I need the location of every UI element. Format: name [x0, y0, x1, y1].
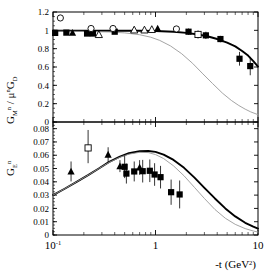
x-tick-base: 10 [253, 239, 265, 251]
top-panel-data-points [52, 15, 253, 75]
y-tick-label: 0.06 [33, 150, 49, 160]
y-tick-label: 1.2 [38, 7, 49, 17]
marker-filled-square [177, 191, 183, 197]
marker-filled-square [140, 168, 146, 174]
x-axis-title: -t (GeV2) [215, 258, 256, 271]
marker-filled-square [123, 170, 129, 176]
curve-main-curve [53, 151, 258, 229]
y-tick-label: 0.03 [33, 190, 49, 200]
bottom-panel-data-points [67, 130, 182, 208]
x-tick-base: 1 [153, 239, 159, 251]
physics-form-factor-figure: GMn / μnGD GEn 1.210.80.60.40.20 0.080.0… [0, 0, 269, 274]
marker-filled-square [236, 56, 242, 62]
marker-filled-triangle [67, 168, 74, 175]
marker-filled-triangle [105, 151, 112, 158]
marker-open-square [85, 145, 91, 151]
y-tick-label: 0.07 [33, 137, 49, 147]
y-tick-label: 0.04 [33, 177, 49, 187]
x-axis-tick-labels: 10-1110 [45, 239, 264, 251]
curve-main-curve [53, 31, 258, 67]
marker-filled-square [247, 63, 253, 69]
top-panel-ticks [53, 12, 258, 122]
marker-filled-square [168, 189, 174, 195]
marker-open-circle [88, 25, 94, 31]
xtitle-suffix: ) [252, 258, 256, 271]
x-tick-label: 10 [253, 239, 265, 251]
marker-filled-square [52, 30, 58, 36]
marker-open-circle [173, 26, 179, 32]
y-tick-label: 1 [45, 26, 50, 36]
y-tick-label: 0.01 [33, 217, 49, 227]
y-tick-label: 0.2 [38, 99, 49, 109]
top-panel-curves [53, 31, 258, 115]
y-tick-label: 0.8 [38, 44, 50, 54]
y-tick-label: 0.6 [38, 62, 50, 72]
y-tick-label: 0.4 [38, 81, 50, 91]
marker-filled-square [217, 36, 223, 42]
bottom-panel-tick-labels: 0.080.070.060.050.040.030.020.010 [33, 124, 49, 240]
xtitle-prefix: -t (GeV [215, 258, 249, 271]
plot-canvas: 1.210.80.60.40.20 0.080.070.060.050.040.… [0, 0, 269, 274]
marker-open-triangle [141, 26, 148, 33]
x-tick-label: 10-1 [45, 239, 61, 251]
marker-filled-square [152, 171, 158, 177]
marker-filled-square [63, 30, 69, 36]
marker-open-circle [57, 15, 63, 21]
marker-open-triangle [148, 26, 155, 33]
top-panel-frame [53, 12, 258, 122]
marker-filled-square [185, 29, 191, 35]
top-panel-tick-labels: 1.210.80.60.40.20 [38, 7, 50, 127]
y-tick-label: 0.08 [33, 124, 49, 134]
bottom-panel-curves [53, 151, 258, 232]
marker-open-circle [110, 25, 116, 31]
y-tick-label: 0.02 [33, 204, 49, 214]
marker-open-triangle [131, 26, 138, 33]
x-tick-exponent: -1 [56, 239, 61, 246]
marker-filled-square [122, 164, 128, 170]
marker-filled-square [157, 174, 163, 180]
y-tick-label: 0.05 [33, 164, 49, 174]
curve-secondary-curve [53, 152, 258, 232]
marker-filled-square [203, 32, 209, 38]
marker-filled-square [131, 168, 137, 174]
marker-open-square [195, 31, 201, 37]
x-tick-label: 1 [153, 239, 159, 251]
marker-filled-triangle [154, 25, 161, 32]
x-tick-base: 10 [45, 239, 57, 251]
